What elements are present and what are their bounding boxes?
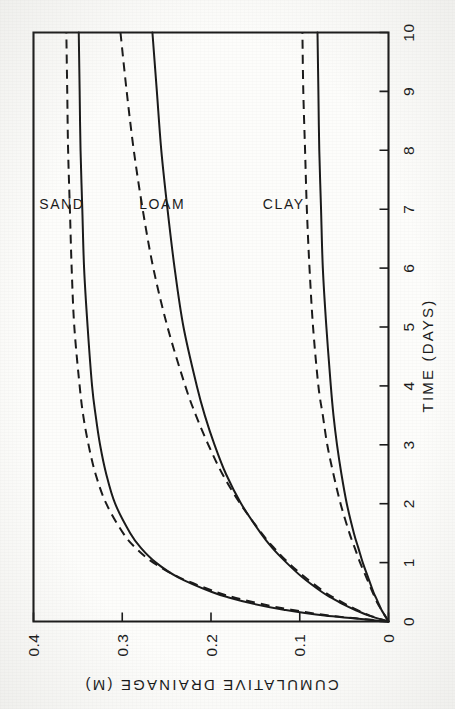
curve-sand-dashed [66,32,388,621]
data-curves [66,32,388,621]
series-annotations: SANDLOAMCLAY [39,196,304,212]
x-axis-tick-labels: 012345678910 [399,23,416,626]
curve-loam-dashed [120,32,388,621]
series-label-loam: LOAM [139,196,185,212]
x-tick-label-7: 7 [399,204,416,213]
plot-area-wrapper: 012345678910 00.10.20.30.4 SANDLOAMCLAY … [0,0,455,709]
drainage-line-chart: 012345678910 00.10.20.30.4 SANDLOAMCLAY … [0,0,455,709]
y-tick-label-1: 0.1 [291,633,308,656]
axis-frame [33,32,388,621]
y-tick-label-4: 0.4 [25,633,42,656]
y-tick-label-2: 0.2 [202,633,219,656]
x-tick-label-8: 8 [399,145,416,154]
curve-clay-solid [317,32,388,621]
y-tick-label-0: 0 [380,633,397,642]
x-tick-label-3: 3 [399,440,416,449]
x-tick-label-10: 10 [399,23,416,41]
x-tick-label-2: 2 [399,499,416,508]
x-tick-label-4: 4 [399,381,416,390]
figure-page: 012345678910 00.10.20.30.4 SANDLOAMCLAY … [0,0,455,709]
x-axis-title: TIME (DAYS) [418,298,435,412]
x-axis-ticks [379,32,388,621]
series-label-sand: SAND [39,196,84,212]
series-label-clay: CLAY [262,196,304,212]
curve-loam-solid [152,32,388,621]
curve-clay-dashed [302,32,388,621]
x-tick-label-9: 9 [399,86,416,95]
y-tick-label-3: 0.3 [113,633,130,656]
x-tick-label-0: 0 [399,616,416,625]
rotated-figure-stage: 012345678910 00.10.20.30.4 SANDLOAMCLAY … [0,0,455,709]
x-tick-label-1: 1 [399,558,416,567]
y-axis-title: CUMULATIVE DRAINAGE (M) [83,676,338,693]
y-axis-tick-labels: 00.10.20.30.4 [25,633,397,656]
curve-sand-solid [78,32,388,621]
x-tick-label-6: 6 [399,263,416,272]
x-tick-label-5: 5 [399,322,416,331]
